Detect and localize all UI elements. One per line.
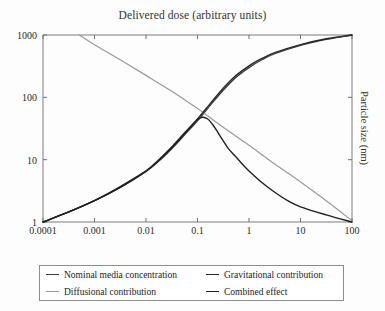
legend-item-diffusional-contribution: Diffusional contribution	[46, 287, 206, 297]
legend-swatch-icon	[46, 274, 59, 275]
y-axis-title-right: Particle size (nm)	[356, 35, 372, 222]
legend-item-nominal-media-concentration: Nominal media concentration	[46, 270, 206, 280]
x-tick-label: 0.001	[83, 225, 106, 236]
x-tick-label: 100	[345, 225, 360, 236]
y-tick-label: 1000	[17, 30, 37, 41]
series-line	[43, 35, 352, 222]
chart-figure: Delivered dose (arbitrary units) Particl…	[0, 0, 385, 311]
legend-swatch-icon	[206, 274, 219, 275]
legend-swatch-icon	[46, 291, 59, 292]
plot-area	[43, 35, 352, 222]
chart-title: Delivered dose (arbitrary units)	[0, 9, 385, 21]
legend-label: Diffusional contribution	[64, 287, 156, 297]
x-tick-label: 0.1	[191, 225, 204, 236]
x-tick-label: 0.01	[137, 225, 155, 236]
y-tick-label: 10	[27, 154, 37, 165]
y-tick-label: 1	[32, 217, 37, 228]
legend-label: Gravitational contribution	[224, 270, 323, 280]
chart-legend: Nominal media concentration Gravitationa…	[39, 265, 344, 301]
legend-swatch-icon	[206, 291, 219, 292]
x-tick-label: 1	[247, 225, 252, 236]
series-line	[43, 117, 352, 222]
series-line	[43, 35, 352, 222]
legend-label: Nominal media concentration	[64, 270, 177, 280]
axis-frame	[43, 35, 352, 222]
y-axis-title-text: Particle size (nm)	[359, 91, 370, 165]
legend-item-gravitational-contribution: Gravitational contribution	[206, 270, 337, 280]
legend-item-combined-effect: Combined effect	[206, 287, 337, 297]
y-tick-label: 100	[22, 92, 37, 103]
legend-label: Combined effect	[224, 287, 287, 297]
axis-ticks	[43, 35, 352, 222]
plot-canvas	[43, 35, 352, 222]
x-tick-label: 10	[296, 225, 306, 236]
